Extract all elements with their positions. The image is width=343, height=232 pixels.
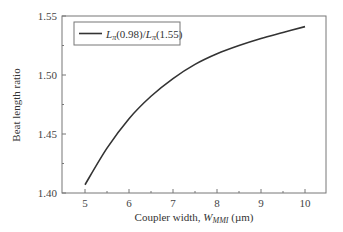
x-tick-label: 5: [82, 197, 88, 209]
x-tick-label: 10: [300, 197, 312, 209]
y-tick-label: 1.55: [38, 10, 58, 22]
data-line: [85, 27, 305, 185]
x-tick-label: 9: [258, 197, 264, 209]
legend-label: Lπ(0.98)/Lπ(1.55): [105, 28, 183, 42]
y-tick-label: 1.50: [38, 69, 58, 81]
x-axis: 5678910: [82, 189, 311, 209]
y-tick-label: 1.40: [38, 187, 58, 199]
x-tick-label: 8: [214, 197, 220, 209]
y-axis-label: Beat length ratio: [10, 68, 22, 142]
x-axis-label: Coupler width, WMMI (µm): [135, 211, 254, 225]
x-tick-label: 7: [170, 197, 176, 209]
y-tick-label: 1.45: [38, 128, 58, 140]
legend: Lπ(0.98)/Lπ(1.55): [74, 22, 183, 45]
chart: 5678910 1.401.451.501.55 Lπ(0.98)/Lπ(1.5…: [0, 0, 343, 232]
x-tick-label: 6: [126, 197, 132, 209]
